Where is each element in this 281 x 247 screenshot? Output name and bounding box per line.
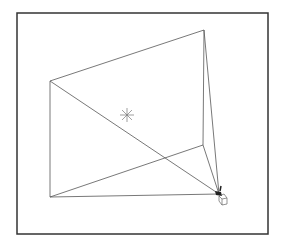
scene-canvas[interactable]	[0, 0, 281, 247]
frustum-right-edge	[203, 30, 204, 145]
target-asterisk-icon	[120, 108, 134, 122]
frustum-inner-edge	[50, 145, 203, 197]
camera-box	[219, 194, 227, 205]
view-frame	[17, 13, 268, 234]
camera-lens	[220, 186, 221, 191]
camera-icon[interactable]	[215, 186, 227, 205]
ray-top-left	[50, 81, 219, 194]
ray-top-right	[204, 30, 219, 194]
frustum-top-edge	[50, 30, 204, 81]
ray-bottom-left	[50, 194, 219, 197]
viewport	[0, 0, 281, 247]
view-frustum	[50, 30, 219, 197]
